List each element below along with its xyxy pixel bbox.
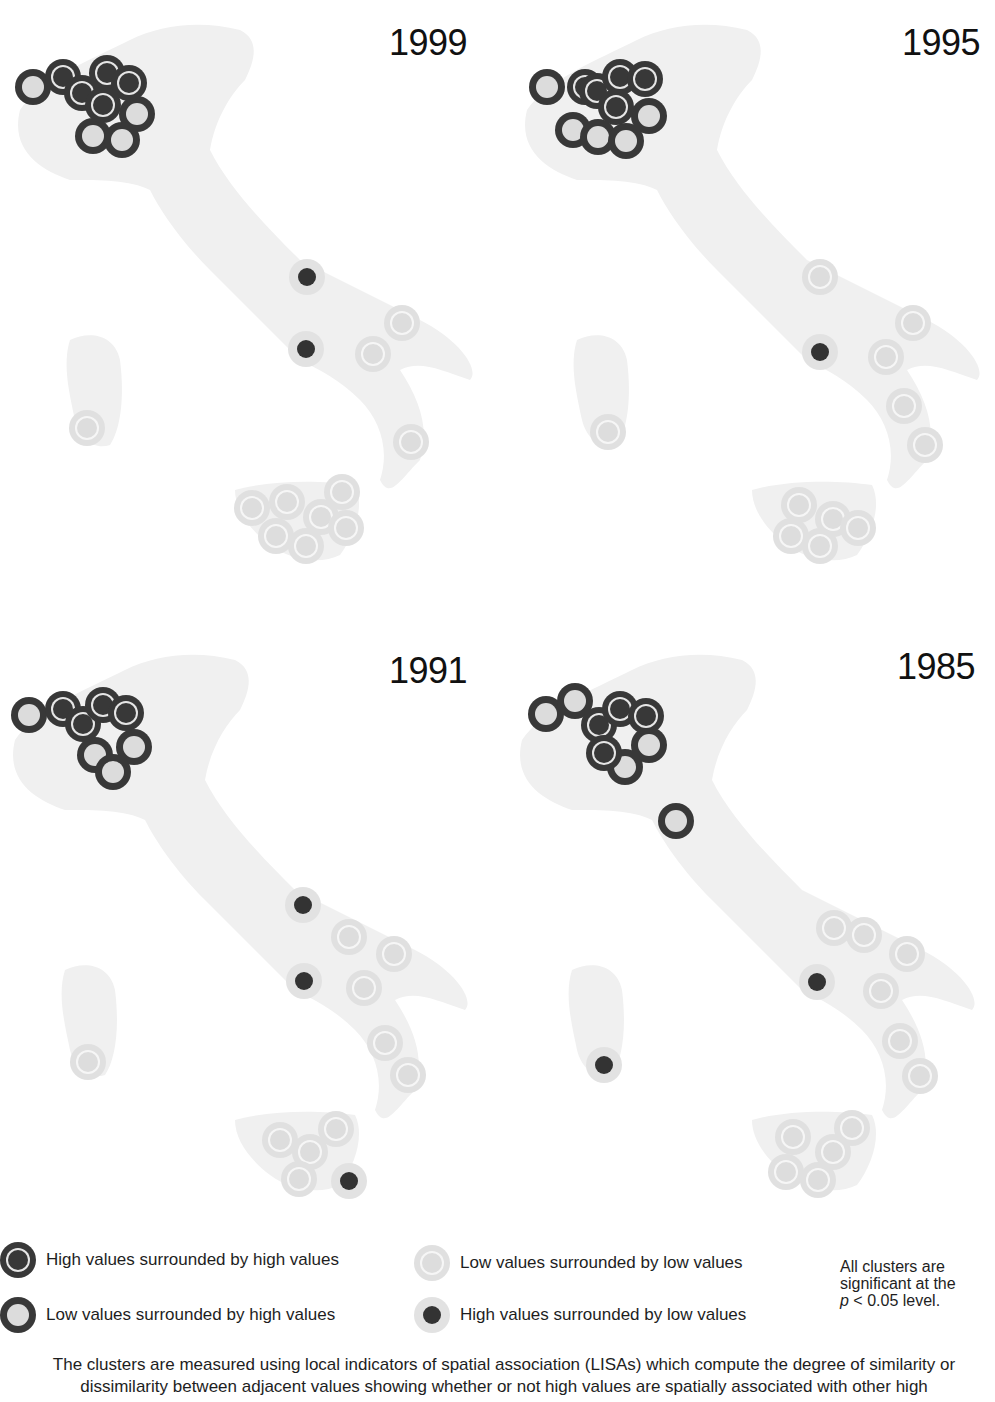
low-low-marker [840,510,876,546]
high-high-marker [598,89,634,125]
high-low-marker-icon [414,1297,450,1333]
low-low-marker [70,1044,106,1080]
low-low-marker [328,510,364,546]
low-low-marker [390,1057,426,1093]
low-low-marker [393,424,429,460]
figure-caption: The clusters are measured using local in… [24,1354,984,1398]
low-low-marker [802,528,838,564]
low-low-marker [889,936,925,972]
high-high-marker [586,735,622,771]
low-low-marker [882,1023,918,1059]
legend-item-high-low: High values surrounded by low values [414,1297,746,1333]
significance-note: All clusters are significant at the p < … [840,1258,990,1309]
low-low-marker [376,936,412,972]
high-high-marker [108,695,144,731]
low-low-marker [863,973,899,1009]
low-low-marker [768,1154,804,1190]
low-low-marker [802,259,838,295]
note-text: < 0.05 level. [849,1292,940,1309]
legend-item-low-high: Low values surrounded by high values [0,1297,335,1333]
high-low-marker [331,1163,367,1199]
low-high-marker [11,697,47,733]
low-low-marker [331,919,367,955]
low-low-marker [318,1111,354,1147]
low-low-marker [800,1162,836,1198]
low-low-marker [886,388,922,424]
low-low-marker-icon [414,1245,450,1281]
low-low-marker [288,528,324,564]
high-high-marker [628,698,664,734]
low-high-marker [104,122,140,158]
low-low-marker [346,970,382,1006]
low-low-marker [846,917,882,953]
low-low-marker [895,305,931,341]
low-low-marker [269,484,305,520]
cluster-markers-layer [0,0,995,1230]
high-low-marker [289,259,325,295]
low-low-marker [868,339,904,375]
low-low-marker [69,410,105,446]
high-low-marker [799,964,835,1000]
low-low-marker [367,1025,403,1061]
low-high-marker [658,803,694,839]
legend-label: High values surrounded by high values [46,1250,339,1270]
legend-item-high-high: High values surrounded by high values [0,1242,339,1278]
high-high-marker-icon [0,1242,36,1278]
note-line: significant at the [840,1275,990,1292]
low-low-marker [907,427,943,463]
low-low-marker [775,1119,811,1155]
note-line: p < 0.05 level. [840,1292,990,1309]
high-low-marker [285,887,321,923]
low-high-marker [529,69,565,105]
legend-label: Low values surrounded by low values [460,1253,743,1273]
low-low-marker [384,305,420,341]
low-low-marker [281,1161,317,1197]
high-low-marker [288,331,324,367]
legend-label: High values surrounded by low values [460,1305,746,1325]
high-low-marker [286,963,322,999]
low-low-marker [902,1058,938,1094]
low-low-marker [590,414,626,450]
high-high-marker [627,61,663,97]
p-symbol: p [840,1292,849,1309]
high-high-marker [85,87,121,123]
note-line: All clusters are [840,1258,990,1275]
low-high-marker-icon [0,1297,36,1333]
high-low-marker [586,1047,622,1083]
low-high-marker [608,123,644,159]
high-low-marker [802,334,838,370]
low-high-marker [95,754,131,790]
low-low-marker [355,336,391,372]
legend-label: Low values surrounded by high values [46,1305,335,1325]
legend-item-low-low: Low values surrounded by low values [414,1245,743,1281]
